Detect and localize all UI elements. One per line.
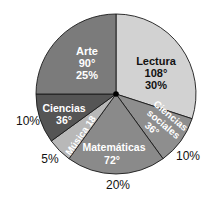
matematicas-degrees: 72° [104,154,120,166]
ciencias-sociales-percent: 10% [176,149,200,163]
lectura-label: Lectura [136,55,177,67]
center-dot [113,91,119,97]
lectura-percent: 30% [145,79,167,91]
ciencias-percent: 10% [16,114,40,128]
ciencias-label: Ciencias [42,102,85,114]
ciencias-degrees: 36° [56,114,72,126]
lectura-degrees: 108° [145,67,168,79]
musica-percent: 5% [41,152,59,166]
arte-percent: 25% [76,69,98,81]
matematicas-percent: 20% [106,178,130,192]
arte-degrees: 90° [79,57,96,69]
pie-chart: Arte 90° 25% Lectura 108° 30% Ciencias 3… [0,0,210,201]
matematicas-label: Matemáticas [82,141,145,153]
arte-label: Arte [76,45,98,57]
